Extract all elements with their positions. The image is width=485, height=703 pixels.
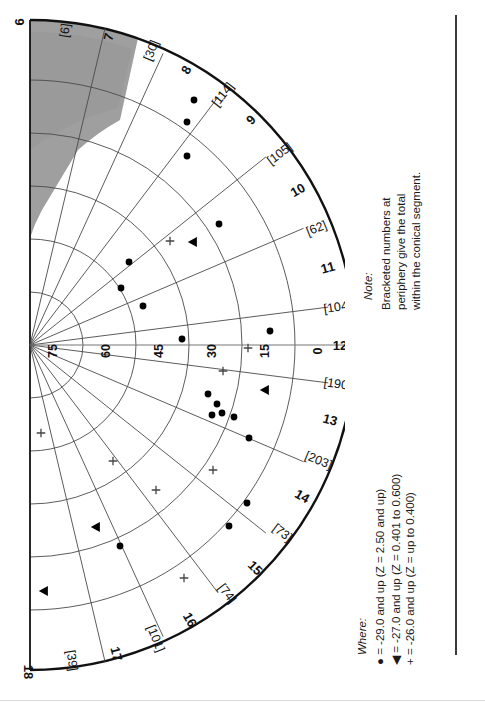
svg-text:18: 18 <box>21 665 36 679</box>
svg-text:30: 30 <box>205 344 219 358</box>
svg-text:13: 13 <box>321 411 339 429</box>
page-bottom-rule <box>0 700 485 701</box>
data-point-filled-circle <box>126 259 133 266</box>
svg-text:12: 12 <box>333 338 345 353</box>
svg-text:[104]: [104] <box>323 298 345 316</box>
data-point-filled-triangle <box>260 385 269 395</box>
svg-text:11: 11 <box>319 259 336 277</box>
data-point-filled-circle <box>191 97 198 104</box>
radial-tick-labels: 75 60 45 30 15 0 <box>46 344 325 358</box>
legend-entry-circle: ● = -29.0 and up (Z = 2.50 and up) <box>374 489 386 665</box>
legend-entry-plus-text: = -26.0 and up (Z = up to 0.400) <box>404 492 416 655</box>
svg-text:9: 9 <box>243 112 259 128</box>
data-point-filled-circle <box>267 328 274 335</box>
svg-text:[6]: [6] <box>57 23 73 39</box>
legend-block: Where: ● = -29.0 and up (Z = 2.50 and up… <box>352 400 447 700</box>
shaded-segment <box>30 20 138 345</box>
filled-triangle-icon: ◀ <box>390 656 402 665</box>
data-point-filled-circle <box>117 543 124 550</box>
data-point-plus-sign <box>180 574 189 583</box>
svg-text:10: 10 <box>288 180 308 200</box>
legend-entry-triangle: ◀ = -27.0 and up (Z = 0.401 to 0.600) <box>389 474 403 665</box>
legend-entry-triangle-text: = -27.0 and up (Z = 0.401 to 0.600) <box>390 474 402 653</box>
legend-entry-circle-text: = -29.0 and up (Z = 2.50 and up) <box>374 489 386 655</box>
svg-text:[203]: [203] <box>303 449 334 472</box>
data-point-plus-sign <box>209 466 218 475</box>
note-block: Note: Bracketed numbers at periphery giv… <box>348 0 438 330</box>
polar-plot: 75 60 45 30 15 0 6 7 8 9 10 11 12 13 14 … <box>0 0 345 703</box>
data-point-plus-sign <box>166 237 175 246</box>
svg-text:[39]: [39] <box>64 649 81 672</box>
svg-text:8: 8 <box>178 63 195 77</box>
svg-text:[73]: [73] <box>270 521 295 545</box>
data-point-plus-sign <box>219 367 228 376</box>
svg-text:[62]: [62] <box>304 218 329 239</box>
svg-text:[101]: [101] <box>144 623 167 654</box>
figure-page: 75 60 45 30 15 0 6 7 8 9 10 11 12 13 14 … <box>0 0 485 703</box>
svg-text:16: 16 <box>180 610 200 630</box>
data-point-filled-circle <box>216 221 223 228</box>
legend-entry-plus: + = -26.0 and up (Z = up to 0.400) <box>404 492 416 665</box>
svg-text:[74]: [74] <box>215 581 239 606</box>
data-point-filled-circle <box>244 500 251 507</box>
filled-circle-icon: ● <box>374 658 386 665</box>
svg-text:45: 45 <box>152 344 166 358</box>
data-point-filled-circle <box>140 303 147 310</box>
data-point-filled-circle <box>231 414 238 421</box>
data-point-filled-circle <box>205 391 212 398</box>
note-title: Note: <box>362 273 374 301</box>
plus-sign-icon: + <box>404 658 416 665</box>
note-line-3: within the conical segment. <box>410 172 422 310</box>
data-point-filled-circle <box>179 336 186 343</box>
note-line-2: periphery give the total <box>395 194 407 310</box>
svg-text:6: 6 <box>12 18 27 25</box>
vertical-divider-rule <box>455 15 457 655</box>
svg-text:[114]: [114] <box>209 80 237 110</box>
data-point-plus-sign <box>37 429 46 438</box>
svg-text:[190]: [190] <box>323 375 345 393</box>
svg-text:75: 75 <box>46 344 60 358</box>
note-line-1: Bracketed numbers at <box>380 197 392 310</box>
data-point-filled-circle <box>118 285 125 292</box>
data-point-filled-circle <box>184 119 191 126</box>
svg-text:15: 15 <box>245 557 266 578</box>
data-point-filled-circle <box>184 153 191 160</box>
data-point-filled-circle <box>214 401 221 408</box>
svg-text:60: 60 <box>99 344 113 358</box>
data-point-filled-circle <box>209 412 216 419</box>
svg-text:0: 0 <box>311 347 325 354</box>
legend-title: Where: <box>356 618 368 655</box>
data-point-plus-sign <box>152 486 161 495</box>
data-point-filled-triangle <box>91 522 100 532</box>
data-point-filled-triangle <box>39 586 48 596</box>
data-point-filled-circle <box>246 435 253 442</box>
data-point-filled-circle <box>219 410 226 417</box>
svg-text:14: 14 <box>292 486 313 507</box>
data-point-filled-circle <box>226 523 233 530</box>
data-point-filled-triangle <box>188 237 197 247</box>
svg-text:15: 15 <box>258 344 272 358</box>
svg-text:[105]: [105] <box>264 140 295 168</box>
